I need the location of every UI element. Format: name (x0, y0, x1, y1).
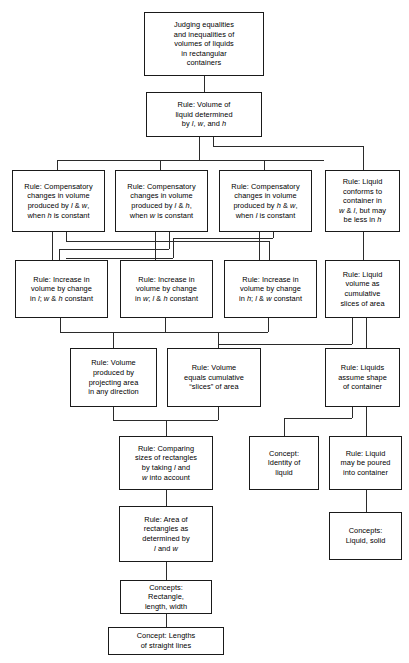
node-rule-liquid-poured[interactable]: Rule: Liquid may be poured into containe… (329, 436, 402, 490)
edge-n4-cross-down (59, 249, 60, 260)
node-rule-compensatory-l-w[interactable]: Rule: Compensatory changes in volume pro… (12, 170, 105, 232)
flowchart-canvas: Judging equalities and inequalities of v… (0, 0, 409, 663)
node-label: Concept: Lengths of straight lines (137, 631, 196, 650)
node-label: Concepts: Liquid, solid (346, 526, 386, 545)
edge-n10-to-n13 (366, 318, 367, 348)
edge-bus-n6 (363, 146, 364, 170)
node-rule-increase-l[interactable]: Rule: Increase in volume by change in l;… (15, 260, 108, 318)
node-rule-cumulative-slices-area[interactable]: Rule: Liquid volume as cumulative slices… (325, 260, 400, 318)
node-label: Rule: Area of rectangles as determined b… (142, 515, 189, 553)
node-label: Rule: Liquid conforms to container in w … (339, 177, 386, 225)
node-concepts-liquid-solid[interactable]: Concepts: Liquid, solid (329, 512, 402, 560)
edge-n6-n10 (363, 232, 364, 260)
edge-n16-n18 (366, 490, 367, 512)
node-rule-volume-projecting-area[interactable]: Rule: Volume produced by projecting area… (70, 348, 157, 407)
node-rule-liquids-assume-shape[interactable]: Rule: Liquids assume shape of container (325, 348, 400, 407)
edge-n8-out (165, 318, 166, 332)
node-label: Rule: Compensatory changes in volume pro… (231, 182, 299, 220)
node-concept-identity-of-liquid[interactable]: Concept: Identity of liquid (249, 436, 319, 490)
edge-n5-out-b (273, 232, 274, 238)
edge-bus-n3 (57, 160, 58, 170)
edge-n17-n19 (166, 562, 167, 580)
edge-n10-bus-down (352, 333, 353, 344)
edge-n10-bus (218, 344, 352, 345)
node-rule-volume-equals-slices[interactable]: Rule: Volume equals cumulative “slices” … (167, 348, 261, 407)
node-rule-increase-w[interactable]: Rule: Increase in volume by change in w;… (120, 260, 213, 318)
edge-n9-bus (218, 332, 268, 333)
node-label: Rule: Volume of liquid determined by l, … (175, 100, 232, 129)
edge-n3-cross-down (269, 241, 270, 260)
edge-n4-out-a (155, 232, 156, 260)
edge-n7-bus (60, 332, 113, 333)
edge-n13-out-a (352, 407, 353, 418)
node-rule-increase-h[interactable]: Rule: Increase in volume by change in h;… (224, 260, 317, 318)
edge-n2-stem-left (199, 137, 200, 160)
node-label: Concept: Identity of liquid (268, 449, 301, 478)
edge-n7-out (60, 318, 61, 332)
edge-n8-bus (113, 332, 218, 333)
node-label: Rule: Compensatory changes in volume pro… (127, 182, 195, 220)
edge-row3-bus (57, 160, 324, 161)
node-judging-equalities[interactable]: Judging equalities and inequalities of v… (144, 12, 264, 76)
edge-n3-out-b (66, 232, 67, 241)
node-rule-compensatory-h-w[interactable]: Rule: Compensatory changes in volume pro… (219, 170, 312, 232)
edge-n2-to-n6-bus (213, 146, 363, 147)
edge-n1-n2 (204, 76, 205, 92)
node-label: Rule: Volume equals cumulative “slices” … (184, 363, 244, 392)
node-rule-liquid-conforms[interactable]: Rule: Liquid conforms to container in w … (325, 170, 400, 232)
edge-n8-to-n12 (218, 332, 219, 348)
edge-n10-out-a (352, 318, 353, 333)
edge-n13-to-n15 (284, 418, 285, 436)
node-label: Rule: Volume produced by projecting area… (88, 358, 139, 396)
node-label: Rule: Increase in volume by change in h;… (239, 275, 302, 304)
edge-n5-cross-low (66, 258, 173, 259)
edge-n2-stem-right (213, 137, 214, 146)
edge-n11-bus (113, 420, 166, 421)
edge-n11-to-n14 (166, 420, 167, 436)
edge-n12-out (218, 407, 219, 420)
edge-n7-to-n11 (113, 332, 114, 348)
edge-n19-n20 (166, 614, 167, 627)
edge-n5-cross (173, 238, 273, 239)
node-label: Rule: Increase in volume by change in w;… (135, 275, 198, 304)
edge-n5-out-a (259, 232, 260, 260)
edge-n9-out (268, 318, 269, 332)
node-rule-area-rectangles[interactable]: Rule: Area of rectangles as determined b… (119, 506, 213, 562)
node-label: Concepts: Rectangle, length, width (145, 583, 187, 612)
edge-n4-cross (59, 249, 169, 250)
node-label: Rule: Liquids assume shape of container (338, 363, 387, 392)
node-rule-volume-determined[interactable]: Rule: Volume of liquid determined by l, … (146, 92, 262, 137)
node-concept-lengths-straight-lines[interactable]: Concept: Lengths of straight lines (108, 627, 224, 655)
node-label: Rule: Compensatory changes in volume pro… (24, 182, 92, 220)
edge-n11-out (113, 407, 114, 420)
edge-n14-n17 (166, 490, 167, 506)
edge-n13-bus (284, 418, 352, 419)
edge-n4-out-b (169, 232, 170, 249)
edge-n3-out-a (52, 232, 53, 260)
node-rule-compensatory-l-h[interactable]: Rule: Compensatory changes in volume pro… (115, 170, 208, 232)
node-concepts-rectangle[interactable]: Concepts: Rectangle, length, width (120, 580, 212, 614)
edge-n12-bus (166, 420, 218, 421)
edge-bus-n4 (160, 160, 161, 170)
node-label: Rule: Liquid volume as cumulative slices… (340, 270, 384, 308)
node-label: Rule: Liquid may be poured into containe… (341, 449, 391, 478)
node-rule-comparing-rectangles[interactable]: Rule: Comparing sizes of rectangles by t… (119, 436, 213, 490)
node-label: Judging equalities and inequalities of v… (174, 20, 235, 68)
edge-n5-cross-mid (173, 238, 174, 258)
node-label: Rule: Comparing sizes of rectangles by t… (135, 444, 197, 482)
edge-bus-n5 (264, 160, 265, 170)
edge-n3-cross (66, 241, 269, 242)
edge-n13-to-n16 (366, 407, 367, 436)
node-label: Rule: Increase in volume by change in l;… (30, 275, 93, 304)
